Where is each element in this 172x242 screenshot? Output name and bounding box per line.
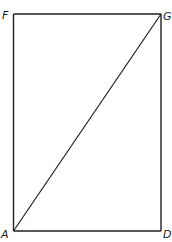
geometry-diagram: F G A D [0,0,172,242]
diagonal-AG [14,14,162,231]
vertex-label-F: F [2,9,9,22]
vertex-label-G: G [163,10,172,23]
vertex-label-A: A [0,228,9,241]
vertex-label-D: D [163,228,171,241]
